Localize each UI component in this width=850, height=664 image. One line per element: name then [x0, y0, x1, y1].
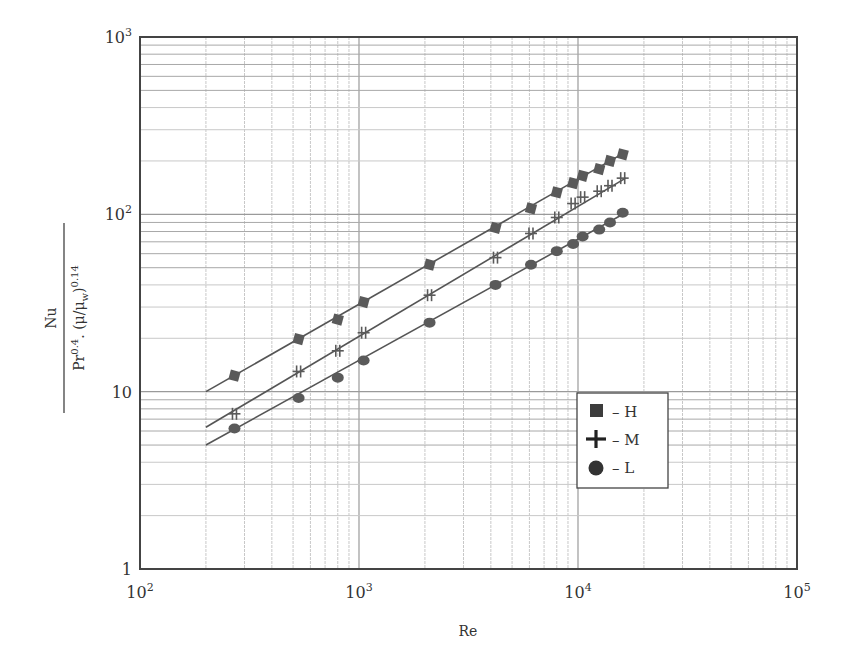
circle-marker — [293, 393, 305, 403]
data-markers — [228, 148, 628, 433]
legend-label-h: – H — [612, 403, 637, 421]
circle-marker — [567, 239, 579, 249]
x-tick-label: 103 — [345, 581, 372, 602]
x-axis-title: Re — [459, 623, 478, 639]
x-tick-label: 104 — [564, 581, 591, 602]
y-tick-label: 10 — [112, 383, 132, 402]
plus-marker — [293, 365, 305, 377]
legend-label-m: – M — [612, 431, 640, 449]
legend-square-icon — [590, 404, 603, 417]
square-marker — [604, 155, 616, 167]
y-label-denominator: Pr0.4. (μ/μw)0.14 — [69, 265, 90, 371]
grid — [140, 37, 797, 569]
circle-marker — [577, 231, 589, 241]
circle-marker — [551, 246, 563, 256]
square-marker — [228, 370, 240, 382]
plus-marker — [567, 198, 579, 210]
legend: – H– M– L — [577, 393, 668, 488]
circle-marker — [358, 355, 370, 365]
legend-circle-icon — [589, 461, 604, 476]
fit-lines — [206, 154, 626, 445]
circle-marker — [228, 423, 240, 433]
nusselt-vs-reynolds-chart: 102103104105 110102103 Re NuPr0.4. (μ/μw… — [0, 0, 850, 664]
circle-marker — [593, 225, 605, 235]
y-axis-title: NuPr0.4. (μ/μw)0.14 — [43, 223, 90, 413]
y-label-numerator: Nu — [43, 307, 59, 328]
plot-area-frame — [140, 37, 797, 569]
y-axis-ticks: 110102103 — [105, 26, 132, 579]
legend-label-l: – L — [612, 459, 634, 477]
square-marker — [292, 333, 304, 345]
x-tick-label: 105 — [783, 581, 810, 602]
circle-marker — [332, 373, 344, 383]
fit-line-m — [206, 178, 626, 427]
circle-marker — [424, 318, 436, 328]
circle-marker — [604, 217, 616, 227]
y-tick-label: 1 — [122, 560, 132, 579]
y-tick-label: 102 — [105, 203, 132, 224]
x-axis-ticks: 102103104105 — [126, 581, 810, 602]
square-marker — [423, 259, 435, 271]
fit-line-l — [206, 213, 626, 445]
square-marker — [617, 148, 629, 160]
circle-marker — [489, 280, 501, 290]
circle-marker — [617, 208, 629, 218]
circle-marker — [525, 260, 537, 270]
x-tick-label: 102 — [126, 581, 153, 602]
y-tick-label: 103 — [105, 26, 132, 47]
square-marker — [332, 313, 344, 325]
